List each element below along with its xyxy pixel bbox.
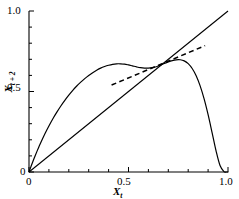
y-axis-title: Xt + 2 — [3, 71, 14, 92]
x-axis-title: Xt — [113, 186, 122, 197]
x-tick-label-1.0: 1.0 — [219, 176, 233, 187]
plot-canvas — [0, 0, 239, 199]
y-tick-label-1.0: 1.0 — [7, 5, 21, 16]
y-tick-label-0: 0 — [20, 166, 26, 177]
identity-line-path — [29, 11, 228, 172]
y-axis-title-base: X — [2, 85, 14, 92]
y-axis-title-rotator: Xt + 2 — [0, 60, 14, 104]
map-curve-path — [29, 60, 228, 173]
chart-figure: 1.0 0.5 0 0 0.5 1.0 Xt Xt + 2 — [0, 0, 239, 199]
y-axis-title-subscript: t + 2 — [8, 71, 17, 85]
x-tick-label-0: 0 — [26, 176, 32, 187]
data-series-group — [29, 11, 228, 172]
tangent-line-path — [112, 46, 206, 85]
